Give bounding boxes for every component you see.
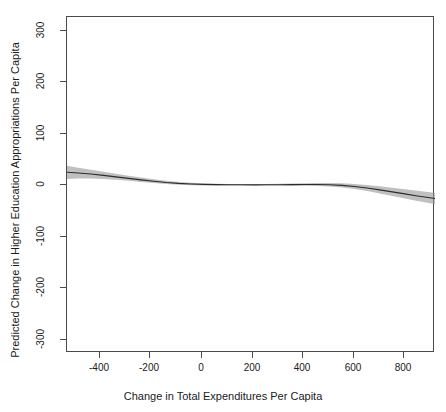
x-tick-mark [201,352,202,358]
y-tick-mark [60,81,66,82]
plot-area [66,16,434,352]
y-axis-title-container: Predicted Change in Higher Education App… [0,0,22,412]
y-tick-mark [60,236,66,237]
x-tick-label: 600 [333,362,373,373]
x-tick-mark [149,352,150,358]
y-tick-label: -200 [26,282,56,292]
y-tick-label: 300 [26,25,56,35]
y-tick-label: 0 [26,179,56,189]
y-tick-label: 100 [26,128,56,138]
x-axis-title: Change in Total Expenditures Per Capita [0,390,446,402]
x-tick-label: 0 [181,362,221,373]
y-tick-mark [60,287,66,288]
x-tick-label: 800 [383,362,423,373]
y-tick-mark [60,30,66,31]
x-tick-label: -200 [129,362,169,373]
x-tick-mark [302,352,303,358]
x-tick-mark [99,352,100,358]
y-tick-mark [60,184,66,185]
x-tick-mark [252,352,253,358]
plot-canvas [67,17,435,353]
x-tick-label: 400 [282,362,322,373]
x-tick-label: 200 [232,362,272,373]
chart-page: 300 200 100 0 -100 -200 -300 -400 -200 0… [0,0,446,412]
y-axis-title: Predicted Change in Higher Education App… [9,35,21,365]
x-tick-mark [353,352,354,358]
y-tick-label: 200 [26,76,56,86]
y-tick-mark [60,339,66,340]
y-tick-mark [60,133,66,134]
x-tick-label: -400 [79,362,119,373]
y-tick-label: -300 [26,334,56,344]
x-tick-mark [403,352,404,358]
y-tick-label: -100 [26,231,56,241]
